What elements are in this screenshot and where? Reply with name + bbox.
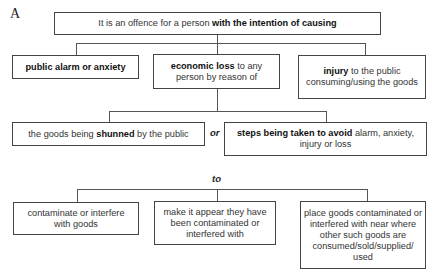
- or-connector-label: or: [210, 127, 220, 138]
- connector: [365, 43, 366, 55]
- connector: [109, 111, 110, 122]
- to-connector-label: to: [212, 173, 221, 184]
- public-alarm-box: public alarm or anxiety: [12, 55, 139, 79]
- shunned-box: the goods being shunned by the public: [12, 122, 205, 146]
- connector: [76, 43, 77, 55]
- connector: [217, 35, 218, 43]
- root-text: It is an offence for a person with the i…: [98, 18, 336, 29]
- contaminate-box: contaminate or interfere with goods: [13, 202, 139, 235]
- connector: [217, 89, 218, 111]
- figure-label: A: [10, 6, 20, 22]
- injury-box: injury to the public consuming/using the…: [298, 55, 426, 99]
- place-goods-box: place goods contaminated or interfered w…: [300, 201, 426, 269]
- connector: [109, 111, 326, 112]
- economic-loss-box: economic loss to any person by reason of: [153, 54, 280, 89]
- connector: [217, 43, 218, 54]
- connector: [326, 111, 327, 122]
- connector: [367, 189, 368, 201]
- connector: [77, 189, 367, 190]
- steps-avoid-box: steps being taken to avoid alarm, anxiet…: [224, 122, 427, 156]
- connector: [76, 43, 365, 44]
- connector: [217, 189, 218, 201]
- make-appear-box: make it appear they have been contaminat…: [154, 201, 276, 245]
- root-box: It is an offence for a person with the i…: [54, 12, 381, 35]
- connector: [77, 189, 78, 202]
